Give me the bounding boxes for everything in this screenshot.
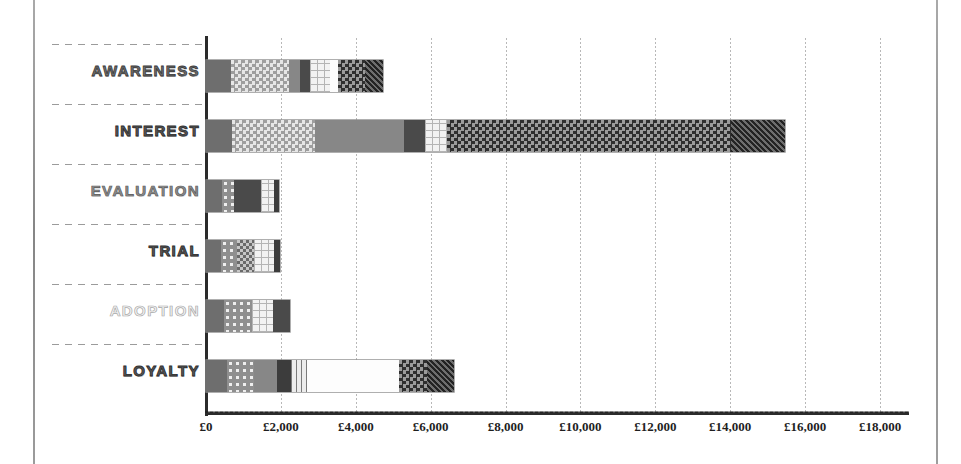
category-label-loyalty: LOYALTY [40, 362, 200, 379]
bar-segment-evaluation-1 [222, 180, 234, 212]
category-separator-0 [52, 44, 204, 45]
x-tick-12000: £12,000 [615, 419, 695, 435]
bar-segment-interest-4 [425, 120, 448, 152]
category-label-trial: TRIAL [40, 242, 200, 259]
bar-segment-evaluation-0 [206, 180, 222, 212]
bar-segment-interest-0 [206, 120, 232, 152]
bar-segment-interest-2 [315, 120, 404, 152]
bar-segment-awareness-4 [310, 60, 330, 92]
x-tick-14000: £14,000 [690, 419, 770, 435]
bar-segment-awareness-2 [289, 60, 299, 92]
bar-segment-trial-1 [221, 240, 236, 272]
bar-segment-evaluation-3 [261, 180, 274, 212]
bar-segment-adoption-3 [273, 300, 290, 332]
bar-adoption [206, 300, 290, 332]
x-axis-line [205, 412, 909, 415]
bar-segment-awareness-7 [365, 60, 383, 92]
bar-segment-trial-3 [254, 240, 274, 272]
bar-segment-loyalty-4 [291, 360, 307, 392]
x-tick-16000: £16,000 [765, 419, 845, 435]
category-label-adoption: ADOPTION [40, 302, 200, 319]
bar-segment-awareness-3 [300, 60, 310, 92]
bar-segment-adoption-2 [252, 300, 274, 332]
bar-segment-loyalty-5 [307, 360, 399, 392]
x-tick-2000: £2,000 [241, 419, 321, 435]
x-tick-10000: £10,000 [540, 419, 620, 435]
gridline-12000 [655, 38, 656, 413]
y-axis-line [205, 36, 208, 416]
category-separator-5 [52, 344, 204, 345]
page-border-right [936, 0, 938, 464]
bar-segment-awareness-1 [231, 60, 289, 92]
bar-segment-adoption-1 [224, 300, 252, 332]
gridline-2000 [281, 38, 282, 413]
bar-segment-awareness-0 [206, 60, 231, 92]
bar-segment-loyalty-7 [427, 360, 454, 392]
gridline-14000 [730, 38, 731, 413]
x-tick-4000: £4,000 [316, 419, 396, 435]
x-tick-18000: £18,000 [840, 419, 920, 435]
bar-segment-interest-6 [731, 120, 786, 152]
bar-segment-trial-0 [206, 240, 221, 272]
category-separator-4 [52, 284, 204, 285]
bar-segment-loyalty-6 [399, 360, 427, 392]
bar-segment-interest-3 [404, 120, 424, 152]
chart-page: AWARENESS INTEREST EVALUATION TRIAL ADOP… [0, 0, 961, 464]
bar-segment-interest-1 [232, 120, 315, 152]
bar-segment-loyalty-3 [277, 360, 291, 392]
category-label-evaluation: EVALUATION [40, 182, 200, 199]
x-tick-6000: £6,000 [391, 419, 471, 435]
bar-segment-awareness-5 [330, 60, 338, 92]
bar-segment-evaluation-4 [274, 180, 278, 212]
category-separator-1 [52, 104, 204, 105]
category-label-awareness: AWARENESS [40, 62, 200, 79]
bar-evaluation [206, 180, 279, 212]
bar-segment-interest-5 [447, 120, 730, 152]
bar-segment-awareness-6 [338, 60, 365, 92]
gridline-10000 [580, 38, 581, 413]
x-tick-8000: £8,000 [466, 419, 546, 435]
page-border-left [33, 0, 35, 464]
bar-segment-loyalty-0 [206, 360, 227, 392]
bar-awareness [206, 60, 383, 92]
bar-loyalty [206, 360, 454, 392]
gridline-4000 [356, 38, 357, 413]
bar-segment-trial-4 [274, 240, 280, 272]
bar-segment-loyalty-2 [254, 360, 277, 392]
category-separator-3 [52, 224, 204, 225]
bar-segment-evaluation-2 [234, 180, 261, 212]
gridline-6000 [431, 38, 432, 413]
category-separator-2 [52, 164, 204, 165]
bar-segment-adoption-0 [206, 300, 224, 332]
gridline-18000 [880, 38, 881, 413]
bar-segment-trial-2 [237, 240, 254, 272]
bar-interest [206, 120, 785, 152]
category-label-interest: INTEREST [40, 122, 200, 139]
x-tick-0: £0 [166, 419, 246, 435]
gridline-8000 [506, 38, 507, 413]
gridline-16000 [805, 38, 806, 413]
bar-trial [206, 240, 280, 272]
bar-segment-loyalty-1 [227, 360, 254, 392]
